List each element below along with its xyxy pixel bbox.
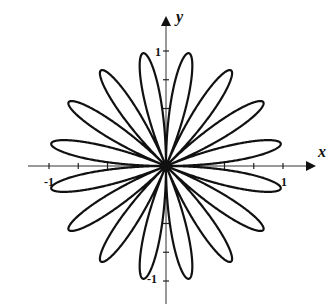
origin-dot <box>161 161 171 171</box>
polar-rose-plot: x y -1 1 1 -1 <box>0 0 333 306</box>
y-axis-arrow-icon <box>161 16 171 26</box>
x-tick-label-neg1: -1 <box>44 175 54 189</box>
y-tick-label-1: 1 <box>155 45 161 59</box>
y-tick-label-neg1: -1 <box>147 272 157 286</box>
y-axis-label: y <box>174 8 184 26</box>
x-axis-label: x <box>317 143 326 160</box>
x-tick-label-1: 1 <box>281 175 287 189</box>
x-axis-arrow-icon <box>306 161 316 171</box>
